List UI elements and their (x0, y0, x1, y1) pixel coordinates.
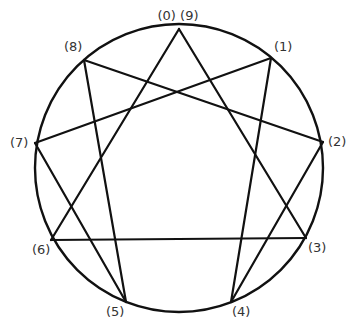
enneagram-diagram: (0) (9)(1)(2)(3)(4)(5)(6)(7)(8) (0, 0, 357, 331)
connecting-lines (35, 29, 323, 302)
point-label-8: (8) (64, 39, 82, 54)
point-label-3: (3) (308, 240, 326, 255)
point-label-7: (7) (10, 135, 28, 150)
point-label-4: (4) (232, 304, 250, 319)
point-label-6: (6) (32, 242, 50, 257)
point-labels: (0) (9)(1)(2)(3)(4)(5)(6)(7)(8) (10, 8, 346, 319)
outer-circle (35, 24, 323, 312)
point-label-2: (2) (328, 134, 346, 149)
point-label-1: (1) (274, 39, 292, 54)
point-label-5: (5) (106, 304, 124, 319)
point-label-9: (0) (9) (158, 8, 199, 23)
line-6-9 (51, 29, 179, 240)
